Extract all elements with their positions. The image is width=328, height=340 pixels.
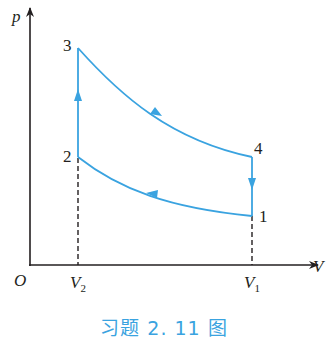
point-3-label: 3 [63, 36, 72, 55]
point-4-label: 4 [254, 139, 263, 158]
y-axis-label: p [11, 7, 21, 26]
arrow-down-icon [248, 178, 256, 190]
v1-tick-label: V1 [244, 273, 260, 294]
process-1-2 [78, 157, 252, 216]
arrow-up-icon [74, 89, 82, 101]
figure-caption: 习题 2. 11 图 [0, 313, 328, 340]
direction-arrows [74, 89, 256, 198]
point-2-label: 2 [63, 147, 72, 166]
origin-label: O [14, 271, 26, 290]
v2-tick-label: V2 [70, 273, 86, 294]
process-3-4 [78, 48, 252, 157]
x-axis-label: V [313, 257, 326, 276]
point-1-label: 1 [259, 207, 268, 226]
